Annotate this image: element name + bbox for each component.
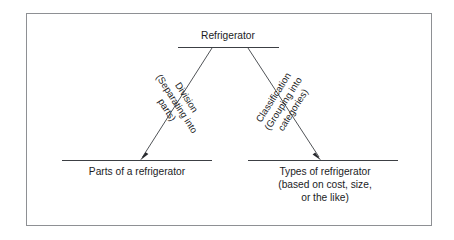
root-node-label: Refrigerator — [201, 30, 255, 41]
figure-canvas: Refrigerator Division (Separating into p… — [0, 0, 454, 240]
division-branch-label-group: Division (Separating into parts) — [144, 66, 209, 141]
classification-branch-label-group: Classification (Grouping into categories… — [252, 69, 314, 139]
types-leaf-label-line-3: or the like) — [301, 192, 349, 203]
division-arrowhead — [140, 152, 148, 160]
types-leaf-label-line-2: (based on cost, size, — [278, 179, 371, 190]
parts-leaf-label-line-1: Parts of a refrigerator — [89, 166, 186, 177]
diagram-artwork: Refrigerator Division (Separating into p… — [0, 0, 454, 240]
types-leaf-label-line-1: Types of refrigerator — [279, 166, 371, 177]
